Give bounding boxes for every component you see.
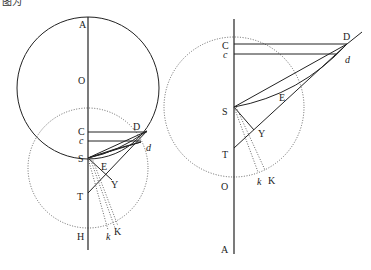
- left-line-SY: [88, 158, 112, 180]
- label-K: K: [268, 175, 276, 186]
- label-E: E: [101, 161, 107, 172]
- label-Y: Y: [111, 179, 118, 190]
- right-tangent-TD: [234, 44, 347, 148]
- label-S: S: [78, 153, 84, 164]
- label-O: O: [78, 75, 85, 86]
- label-Y: Y: [258, 128, 265, 139]
- right-line-SY: [234, 107, 254, 130]
- left-chord-SD: [88, 131, 147, 158]
- label-O: O: [221, 181, 228, 192]
- left-figure: A O C c D d S E Y T H k K: [17, 17, 159, 250]
- label-K: K: [114, 226, 122, 237]
- label-d: d: [146, 142, 152, 153]
- right-figure: C c D d S E Y T O k K A: [164, 19, 362, 255]
- geometry-diagram: 图为 A O C c D d S E Y T: [0, 0, 371, 270]
- right-chord-SD: [234, 44, 347, 107]
- label-c: c: [223, 49, 228, 60]
- label-A: A: [79, 19, 87, 30]
- label-A: A: [221, 244, 229, 255]
- label-k: k: [257, 176, 262, 187]
- label-S: S: [222, 106, 228, 117]
- caption: 图为: [2, 0, 22, 7]
- label-k: k: [106, 231, 111, 242]
- right-dotted-Sk: [234, 107, 258, 172]
- label-D: D: [133, 121, 140, 132]
- label-E: E: [279, 92, 285, 103]
- label-T: T: [222, 149, 228, 160]
- label-D: D: [343, 31, 350, 42]
- label-c: c: [79, 135, 84, 146]
- label-T: T: [77, 191, 83, 202]
- label-d: d: [345, 54, 351, 65]
- label-H: H: [77, 231, 84, 242]
